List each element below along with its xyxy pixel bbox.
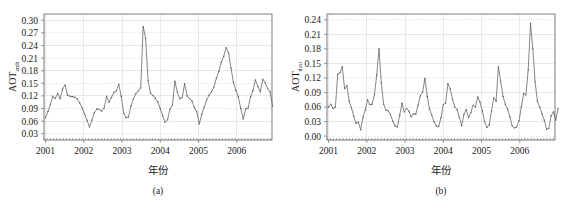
data-point <box>463 114 464 115</box>
data-point <box>177 91 178 92</box>
data-point <box>157 101 158 102</box>
chart-b-svg: 0.000.030.060.090.120.150.180.210.242001… <box>283 0 566 208</box>
y-tick-label: 0.24 <box>21 41 38 51</box>
data-point <box>491 110 492 111</box>
data-point <box>81 107 82 108</box>
data-point <box>91 120 92 121</box>
data-point <box>123 112 124 113</box>
y-axis-title: AOTdust <box>290 62 303 92</box>
data-point <box>461 125 462 126</box>
data-point <box>230 67 231 68</box>
data-point <box>344 88 345 89</box>
data-point <box>477 96 478 97</box>
data-point <box>174 81 175 82</box>
data-point <box>518 120 519 121</box>
data-point <box>486 127 487 128</box>
data-point <box>371 103 372 104</box>
data-point <box>493 97 494 98</box>
data-point <box>472 104 473 105</box>
panel-caption: (b) <box>435 186 446 197</box>
y-tick-label: 0.06 <box>304 102 321 112</box>
data-point <box>392 120 393 121</box>
data-point <box>235 90 236 91</box>
data-point <box>415 114 416 115</box>
data-point <box>155 98 156 99</box>
data-point <box>125 117 126 118</box>
data-point <box>454 106 455 107</box>
data-point <box>539 106 540 107</box>
x-tick-label: 2003 <box>396 146 415 156</box>
data-point <box>362 117 363 118</box>
data-point <box>532 48 533 49</box>
x-tick-label: 2006 <box>510 146 529 156</box>
data-point <box>45 117 46 118</box>
data-point <box>509 116 510 117</box>
data-point <box>147 80 148 81</box>
y-tick-label: 0.09 <box>304 88 321 98</box>
data-point <box>260 91 261 92</box>
data-point <box>401 102 402 103</box>
data-point <box>466 109 467 110</box>
data-point <box>74 96 75 97</box>
data-point <box>351 107 352 108</box>
data-point <box>537 101 538 102</box>
data-point <box>468 117 469 118</box>
data-point <box>413 113 414 114</box>
data-point <box>427 96 428 97</box>
y-tick-label: 0.21 <box>304 30 321 40</box>
data-point <box>394 125 395 126</box>
data-point <box>52 96 53 97</box>
data-point <box>262 78 263 79</box>
data-point <box>342 66 343 67</box>
data-point <box>447 83 448 84</box>
y-tick-label: 0.15 <box>304 59 321 69</box>
data-point <box>201 114 202 115</box>
data-point <box>420 95 421 96</box>
data-point <box>443 104 444 105</box>
y-tick-label: 0.12 <box>21 91 38 101</box>
data-point <box>64 84 65 85</box>
data-point <box>378 48 379 49</box>
data-point <box>218 71 219 72</box>
data-point <box>546 129 547 130</box>
data-point <box>257 86 258 87</box>
data-point <box>534 81 535 82</box>
data-point <box>269 91 270 92</box>
data-point <box>470 112 471 113</box>
data-point <box>152 95 153 96</box>
y-tick-label: 0.09 <box>21 104 38 114</box>
data-point <box>511 125 512 126</box>
data-point <box>495 101 496 102</box>
data-point <box>479 102 480 103</box>
data-point <box>130 105 131 106</box>
data-point <box>369 104 370 105</box>
data-point <box>267 88 268 89</box>
data-point <box>433 121 434 122</box>
data-point <box>475 106 476 107</box>
data-point <box>339 72 340 73</box>
data-point <box>106 96 107 97</box>
data-point <box>489 124 490 125</box>
data-point <box>94 112 95 113</box>
panel-b: 0.000.030.060.090.120.150.180.210.242001… <box>283 0 566 208</box>
data-point <box>67 94 68 95</box>
data-point <box>264 82 265 83</box>
data-point <box>521 106 522 107</box>
x-tick-label: 2002 <box>357 146 376 156</box>
data-point <box>59 98 60 99</box>
data-point <box>252 90 253 91</box>
data-point <box>108 102 109 103</box>
data-point <box>206 99 207 100</box>
data-point <box>238 96 239 97</box>
data-point <box>484 121 485 122</box>
data-point <box>50 104 51 105</box>
data-point <box>47 111 48 112</box>
y-tick-label: 0.18 <box>21 66 38 76</box>
data-point <box>358 121 359 122</box>
data-point <box>225 47 226 48</box>
data-point <box>422 91 423 92</box>
data-point <box>160 108 161 109</box>
data-point <box>548 128 549 129</box>
data-point <box>172 104 173 105</box>
data-point <box>233 82 234 83</box>
